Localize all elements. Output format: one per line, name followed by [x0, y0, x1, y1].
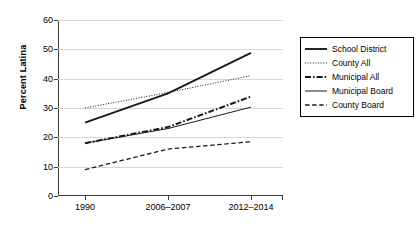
- y-tick-label: 30: [43, 104, 53, 113]
- x-tick-label: 1990: [75, 203, 95, 212]
- series-line-school-district: [85, 53, 251, 123]
- legend-line-swatch: [305, 58, 327, 68]
- y-tick-label: 10: [43, 162, 53, 171]
- y-tick-label: 20: [43, 133, 53, 142]
- series-line-municipal-all: [85, 97, 251, 144]
- legend-line-swatch: [305, 100, 327, 110]
- legend-label: Municipal All: [332, 73, 379, 82]
- legend-label: School District: [332, 45, 386, 54]
- y-axis-title: Percent Latina: [18, 12, 28, 142]
- y-tick-label: 0: [48, 192, 53, 201]
- legend-line-swatch: [305, 72, 327, 82]
- legend-item: School District: [305, 42, 408, 56]
- legend-item: Municipal All: [305, 70, 408, 84]
- series-line-county-all: [85, 76, 251, 108]
- legend-item: County All: [305, 56, 408, 70]
- legend-line-swatch: [305, 86, 327, 96]
- legend-label: Municipal Board: [332, 87, 393, 96]
- x-tick-mark: [251, 196, 252, 200]
- legend-label: County Board: [332, 101, 384, 110]
- y-tick-mark: [54, 196, 58, 197]
- x-tick-label: 2006–2007: [145, 203, 190, 212]
- x-tick-label: 2012–2014: [228, 203, 273, 212]
- y-tick-label: 40: [43, 74, 53, 83]
- y-tick-label: 50: [43, 45, 53, 54]
- x-tick-mark: [85, 196, 86, 200]
- series-line-county-board: [85, 142, 251, 170]
- y-tick-label: 60: [43, 16, 53, 25]
- series-lines: [58, 20, 283, 196]
- legend-label: County All: [332, 59, 370, 68]
- legend-item: County Board: [305, 98, 408, 112]
- plot-area: 0102030405060 19902006–20072012–2014: [58, 20, 283, 196]
- x-tick-mark: [168, 196, 169, 200]
- chart-legend: School DistrictCounty AllMunicipal AllMu…: [300, 37, 414, 117]
- chart-figure: Percent Latina 0102030405060 19902006–20…: [0, 0, 420, 234]
- figure-caption: [0, 228, 420, 234]
- legend-item: Municipal Board: [305, 84, 408, 98]
- legend-line-swatch: [305, 44, 327, 54]
- x-tick-mark-end: [282, 196, 283, 200]
